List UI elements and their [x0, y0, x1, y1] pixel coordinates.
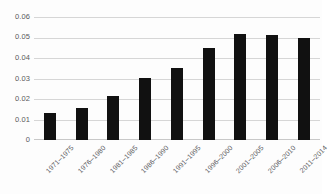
y-axis-tick-label: 0.03 — [0, 75, 30, 83]
y-axis-tick-label: 0 — [0, 136, 30, 144]
y-axis-tick-label: 0.04 — [0, 54, 30, 62]
bar — [44, 113, 56, 140]
x-axis-tick-label: 2011–2014 — [298, 144, 328, 174]
y-axis-tick-labels: 0.06 0.05 0.04 0.03 0.02 0.01 0 — [0, 0, 30, 194]
bar — [203, 48, 215, 140]
bar — [234, 34, 246, 140]
x-axis-tick-labels: 1971–1975 1976–1980 1981–1985 1986–1990 … — [34, 141, 320, 194]
bar — [76, 108, 88, 140]
bar — [107, 96, 119, 140]
y-axis-tick-label: 0.06 — [0, 13, 30, 21]
x-axis-tick-label: 1991–1995 — [172, 144, 202, 174]
bar — [171, 68, 183, 140]
bar — [266, 35, 278, 140]
y-axis-tick-label: 0.05 — [0, 33, 30, 41]
x-axis-tick-label: 1981–1985 — [109, 144, 139, 174]
bar-series — [34, 17, 320, 140]
bar — [298, 38, 310, 140]
x-axis-tick-label: 1986–1990 — [140, 144, 170, 174]
y-axis-tick-label: 0.02 — [0, 95, 30, 103]
x-axis-tick-label: 1996–2000 — [204, 144, 234, 174]
x-axis-tick-label: 2006–2010 — [267, 144, 297, 174]
x-axis-tick-label: 1971–1975 — [45, 144, 75, 174]
plot-area — [34, 17, 320, 140]
x-axis-tick-label: 2001–2005 — [235, 144, 265, 174]
y-axis-tick-label: 0.01 — [0, 116, 30, 124]
x-axis-tick-label: 1976–1980 — [77, 144, 107, 174]
bar — [139, 78, 151, 140]
